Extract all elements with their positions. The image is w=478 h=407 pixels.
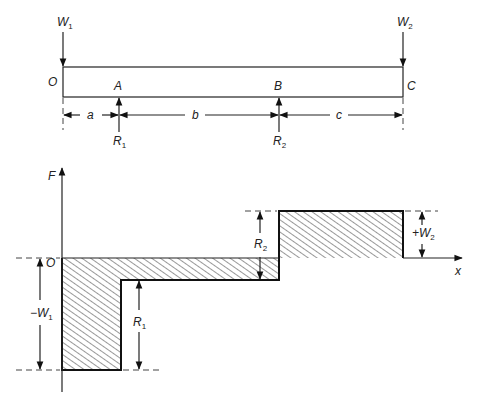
beam-shear-diagram: W1 W2 O A B C R1 R2 a <box>0 0 478 407</box>
reaction-r1: R1 <box>113 98 127 150</box>
load-w1: W1 <box>57 15 73 66</box>
svg-text:−W1: −W1 <box>30 306 53 322</box>
negative-shear-region <box>62 258 279 370</box>
f-axis-label: F <box>48 169 56 183</box>
reaction-r2-label: R2 <box>273 134 287 150</box>
svg-text:R1: R1 <box>133 315 147 331</box>
x-axis-label: x <box>454 264 462 278</box>
dimension-c-label: c <box>336 108 342 122</box>
dimension-b: b <box>120 108 278 122</box>
reaction-r1-label: R1 <box>113 134 127 150</box>
dimension-a-label: a <box>87 108 94 122</box>
point-a-label: A <box>113 79 122 93</box>
dimension-c: c <box>280 108 402 122</box>
dimension-a: a <box>64 108 118 122</box>
positive-shear-region <box>279 211 403 258</box>
beam-figure: W1 W2 O A B C R1 R2 a <box>48 15 416 150</box>
reaction-r2: R2 <box>273 98 287 150</box>
load-w2: W2 <box>397 15 413 66</box>
svg-text:R2: R2 <box>254 237 268 253</box>
dimension-b-label: b <box>192 108 199 122</box>
force-diagram: F x O −W1 R1 R2 +W2 <box>16 168 462 392</box>
svg-text:+W2: +W2 <box>412 226 435 242</box>
plus-w2-annotation: +W2 <box>412 212 435 257</box>
load-w1-label: W1 <box>57 15 73 31</box>
load-w2-label: W2 <box>397 15 413 31</box>
point-b-label: B <box>274 79 282 93</box>
point-o-label: O <box>48 75 57 89</box>
r1-annotation: R1 <box>133 281 147 369</box>
point-c-label: C <box>407 79 416 93</box>
minus-w1-annotation: −W1 <box>30 259 53 369</box>
